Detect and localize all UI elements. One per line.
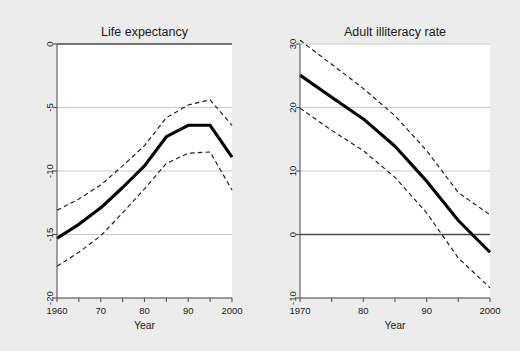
x-tick-label: 90	[421, 305, 432, 316]
y-tick-label: 0	[287, 232, 298, 237]
x-tick-label: 80	[139, 305, 150, 316]
y-tick-label: -10	[287, 291, 298, 305]
y-tick-label: -15	[44, 228, 55, 242]
panel-adult-illiteracy-rate: Adult illiteracy rate 3020100-10 1970809…	[287, 25, 501, 331]
x-tick-label: 1970	[289, 305, 310, 316]
x-tick-label: 2000	[479, 305, 500, 316]
panel-title-right: Adult illiteracy rate	[344, 25, 446, 39]
x-axis-label-left: Year	[134, 319, 156, 331]
y-tick-label: 30	[287, 39, 298, 50]
y-tick-label: 20	[287, 102, 298, 113]
y-tick-label: -20	[44, 291, 55, 305]
x-tick-label: 1960	[46, 305, 67, 316]
y-tick-label: -10	[44, 164, 55, 178]
y-tick-label: 10	[287, 166, 298, 177]
x-tick-label: 80	[358, 305, 369, 316]
x-tick-label: 70	[95, 305, 106, 316]
panel-title-left: Life expectancy	[101, 25, 189, 39]
x-tick-label: 90	[183, 305, 194, 316]
panel-life-expectancy: Life expectancy 0-5-10-15-20 19607080902…	[44, 25, 243, 331]
two-panel-line-chart-figure: Life expectancy 0-5-10-15-20 19607080902…	[0, 0, 520, 351]
x-axis-label-right: Year	[384, 319, 406, 331]
y-tick-label: 0	[44, 41, 55, 46]
x-tick-label: 2000	[221, 305, 242, 316]
y-tick-label: -5	[44, 103, 55, 111]
